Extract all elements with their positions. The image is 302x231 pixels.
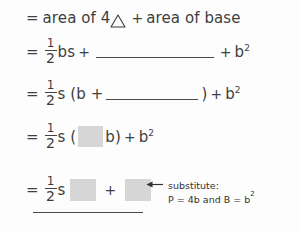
line4-term-a: s ( (58, 128, 77, 146)
annotation-detail-text: P = 4b and B = b (168, 194, 250, 205)
line4-term-b: b) (105, 128, 121, 146)
equation-line-3: = 1 2 s (b + ) + b2 (26, 80, 241, 107)
worksheet-canvas: = area of 4 + area of base = 1 2 bs + + … (0, 0, 302, 231)
substitute-annotation: substitute: P = 4b and B = b2 (146, 180, 255, 206)
line2-term-b: b (235, 43, 245, 61)
final-expression-underline (33, 212, 143, 213)
annotation-label: substitute: (168, 180, 219, 192)
fraction-numerator: 1 (47, 123, 55, 134)
line5-term-a: s (58, 181, 66, 199)
fraction-numerator: 1 (47, 38, 55, 49)
fraction-one-half-3: 1 2 (45, 80, 57, 107)
left-arrow-icon (146, 180, 164, 192)
fraction-one-half-2: 1 2 (45, 38, 57, 65)
relation-equals-2: = (26, 43, 39, 61)
gray-box-line4[interactable] (78, 126, 103, 147)
line5-operator: + (105, 182, 117, 198)
line1-operator: + (131, 10, 143, 26)
fraction-numerator: 1 (47, 80, 55, 91)
line1-text-b: area of base (146, 9, 240, 27)
relation-equals-5: = (26, 181, 39, 199)
annotation-label-row: substitute: (146, 180, 255, 192)
equation-line-2: = 1 2 bs + + b2 (26, 38, 250, 65)
annotation-detail-row: P = 4b and B = b2 (168, 194, 255, 206)
line3-term-b: ) (201, 85, 207, 103)
blank-rule-line3[interactable] (106, 99, 198, 100)
fraction-one-half-5: 1 2 (45, 176, 57, 203)
line3-term-c: b (225, 85, 235, 103)
annotation-detail-exponent: 2 (250, 190, 254, 198)
line4-operator-b: + (124, 129, 136, 145)
relation-equals-4: = (26, 128, 39, 146)
gray-box-line5-first[interactable] (70, 179, 96, 201)
triangle-icon (110, 13, 126, 27)
line3-operator-b: + (210, 86, 222, 102)
line1-text-a: area of 4 (43, 9, 111, 27)
fraction-denominator: 2 (46, 190, 55, 203)
fraction-numerator: 1 (47, 176, 55, 187)
equation-line-5: = 1 2 s + (26, 176, 153, 203)
line4-term-c: b (139, 128, 149, 146)
line3-term-a: s (b + (58, 85, 104, 103)
line2-operator-a: + (78, 44, 90, 60)
relation-equals-1: = (26, 9, 39, 27)
equation-line-4: = 1 2 s ( b) + b2 (26, 123, 154, 150)
blank-rule-line2[interactable] (96, 57, 214, 58)
fraction-denominator: 2 (46, 137, 55, 150)
fraction-denominator: 2 (46, 52, 55, 65)
fraction-one-half-4: 1 2 (45, 123, 57, 150)
equation-line-1: = area of 4 + area of base (26, 9, 241, 27)
line2-term-a: bs (58, 43, 76, 61)
fraction-denominator: 2 (46, 94, 55, 107)
relation-equals-3: = (26, 85, 39, 103)
line2-operator-b: + (220, 44, 232, 60)
